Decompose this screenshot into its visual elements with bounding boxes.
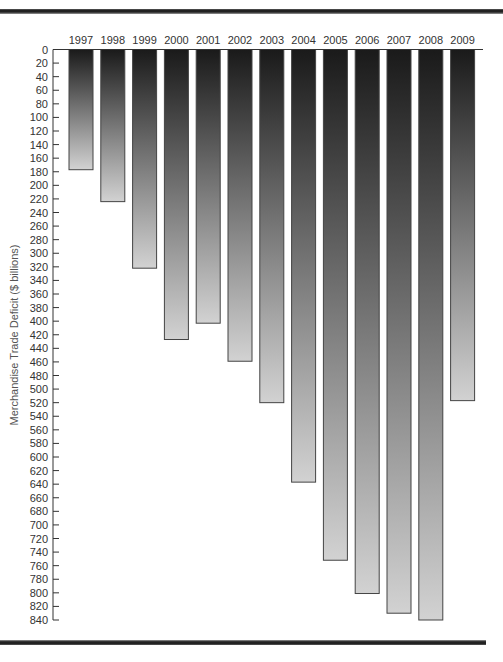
bar-2009 <box>451 50 475 401</box>
y-tick-label: 660 <box>30 492 48 504</box>
y-tick-label: 440 <box>30 342 48 354</box>
y-tick-label: 200 <box>30 179 48 191</box>
category-label: 2006 <box>355 34 379 46</box>
y-tick-label: 700 <box>30 519 48 531</box>
y-tick-label: 500 <box>30 383 48 395</box>
category-label: 2002 <box>228 34 252 46</box>
y-tick-label: 300 <box>30 247 48 259</box>
category-labels: 1997199819992000200120022003200420052006… <box>69 34 475 46</box>
y-tick-label: 840 <box>30 614 48 626</box>
chart: 0204060801001201401601802002202402602803… <box>0 0 503 662</box>
y-tick-label: 680 <box>30 505 48 517</box>
y-tick-label: 600 <box>30 451 48 463</box>
y-axis-title: Merchandise Trade Deficit ($ billions) <box>8 245 20 426</box>
y-tick-label: 400 <box>30 315 48 327</box>
y-tick-label: 460 <box>30 356 48 368</box>
bar-2001 <box>196 50 220 324</box>
y-tick-label: 280 <box>30 234 48 246</box>
y-tick-label: 180 <box>30 166 48 178</box>
y-tick-label: 640 <box>30 478 48 490</box>
bottom-rule <box>0 640 486 645</box>
category-label: 2007 <box>387 34 411 46</box>
category-label: 2009 <box>450 34 474 46</box>
y-tick-label: 240 <box>30 207 48 219</box>
y-tick-label: 800 <box>30 587 48 599</box>
bar-2004 <box>292 50 316 483</box>
category-label: 2005 <box>323 34 347 46</box>
category-label: 1999 <box>132 34 156 46</box>
y-tick-label: 20 <box>36 57 48 69</box>
y-tick-label: 520 <box>30 397 48 409</box>
bar-1999 <box>133 50 157 269</box>
bar-2002 <box>228 50 252 362</box>
y-tick-label: 480 <box>30 370 48 382</box>
y-tick-label: 120 <box>30 125 48 137</box>
category-label: 2008 <box>419 34 443 46</box>
y-tick-label: 780 <box>30 573 48 585</box>
y-tick-label: 820 <box>30 600 48 612</box>
bar-1998 <box>101 50 125 202</box>
y-tick-label: 220 <box>30 193 48 205</box>
bar-2006 <box>355 50 379 594</box>
category-label: 2001 <box>196 34 220 46</box>
y-tick-label: 420 <box>30 329 48 341</box>
bar-2003 <box>260 50 284 403</box>
y-tick-label: 760 <box>30 560 48 572</box>
bars-group <box>69 50 475 621</box>
y-tick-label: 160 <box>30 152 48 164</box>
y-tick-label: 580 <box>30 437 48 449</box>
y-tick-label: 320 <box>30 261 48 273</box>
y-tick-label: 560 <box>30 424 48 436</box>
y-tick-label: 100 <box>30 111 48 123</box>
bar-2005 <box>323 50 347 561</box>
y-tick-label: 140 <box>30 139 48 151</box>
category-label: 2004 <box>291 34 315 46</box>
y-tick-label: 720 <box>30 533 48 545</box>
y-tick-label: 260 <box>30 220 48 232</box>
bar-2000 <box>164 50 188 340</box>
category-label: 2003 <box>260 34 284 46</box>
y-tick-label: 540 <box>30 410 48 422</box>
bar-2007 <box>387 50 411 614</box>
y-tick-label: 740 <box>30 546 48 558</box>
bar-1997 <box>69 50 93 170</box>
category-label: 1997 <box>69 34 93 46</box>
y-tick-label: 60 <box>36 84 48 96</box>
y-tick-label: 620 <box>30 465 48 477</box>
y-tick-label: 380 <box>30 302 48 314</box>
y-tick-label: 40 <box>36 71 48 83</box>
y-tick-label: 0 <box>42 44 48 56</box>
y-axis: 0204060801001201401601802002202402602803… <box>30 44 483 627</box>
category-label: 1998 <box>101 34 125 46</box>
y-tick-label: 340 <box>30 274 48 286</box>
category-label: 2000 <box>164 34 188 46</box>
bar-2008 <box>419 50 443 621</box>
y-tick-label: 360 <box>30 288 48 300</box>
y-tick-label: 80 <box>36 98 48 110</box>
